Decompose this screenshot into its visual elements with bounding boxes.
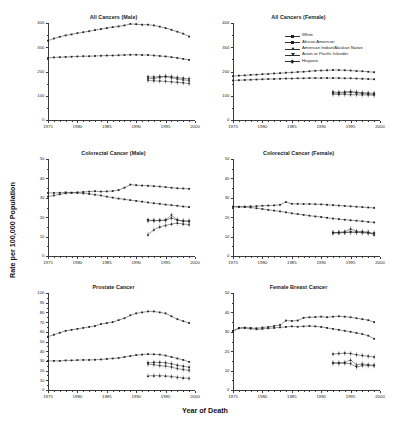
x-tick-label: 1980	[69, 260, 85, 265]
legend: White African American American Indian/A…	[285, 33, 400, 65]
triangle-up-marker-icon	[291, 47, 295, 50]
x-tick-label: 2000	[187, 260, 203, 265]
x-minor-tick	[177, 257, 178, 258]
y-tick-label: 200	[216, 69, 230, 74]
x-tick-label: 1980	[254, 124, 270, 129]
x-minor-tick	[130, 121, 131, 122]
x-minor-tick	[101, 257, 102, 258]
x-minor-tick	[309, 257, 310, 258]
y-tick-label: 300	[216, 45, 230, 50]
x-minor-tick	[183, 257, 184, 258]
x-tick-label: 1995	[343, 260, 359, 265]
y-tick-label: 0	[216, 117, 230, 122]
x-minor-tick	[374, 257, 375, 258]
x-tick-mark	[380, 391, 381, 393]
y-tick-label: 70	[31, 320, 45, 325]
x-minor-tick	[345, 121, 346, 122]
x-minor-tick	[333, 121, 334, 122]
x-minor-tick	[101, 121, 102, 122]
x-minor-tick	[304, 257, 305, 258]
x-tick-mark	[195, 121, 196, 123]
legend-label: African American	[302, 39, 334, 44]
x-minor-tick	[160, 257, 161, 258]
x-tick-mark	[233, 391, 234, 393]
x-tick-mark	[166, 121, 167, 123]
x-tick-mark	[107, 257, 108, 259]
x-minor-tick	[171, 257, 172, 258]
series-layer	[48, 293, 195, 390]
x-axis-line	[48, 120, 195, 121]
x-minor-tick	[72, 257, 73, 258]
plot-area: 0102030405060708090100197519801985199019…	[48, 293, 195, 390]
series-line	[233, 326, 374, 339]
x-minor-tick	[142, 121, 143, 122]
x-axis-line	[233, 390, 380, 391]
x-minor-tick	[60, 257, 61, 258]
x-minor-tick	[251, 257, 252, 258]
x-axis-line	[233, 120, 380, 121]
x-minor-tick	[54, 391, 55, 392]
y-tick-label: 400	[216, 20, 230, 25]
series-layer	[48, 23, 195, 120]
x-tick-mark	[107, 391, 108, 393]
x-minor-tick	[298, 257, 299, 258]
x-minor-tick	[160, 391, 161, 392]
x-tick-label: 1975	[225, 124, 241, 129]
x-minor-tick	[113, 121, 114, 122]
y-tick-label: 10	[31, 234, 45, 239]
x-tick-label: 1985	[284, 124, 300, 129]
square-marker-icon	[291, 35, 294, 38]
x-minor-tick	[189, 257, 190, 258]
figure-xlabel: Year of Death	[150, 406, 260, 415]
x-minor-tick	[362, 391, 363, 392]
x-minor-tick	[54, 121, 55, 122]
x-tick-label: 1990	[313, 394, 329, 399]
x-tick-label: 2000	[372, 394, 388, 399]
x-minor-tick	[245, 121, 246, 122]
x-minor-tick	[251, 121, 252, 122]
x-tick-label: 1980	[254, 260, 270, 265]
series-line	[233, 202, 374, 208]
x-tick-mark	[262, 391, 263, 393]
diamond-marker-icon	[290, 59, 294, 63]
x-tick-mark	[233, 257, 234, 259]
x-axis-line	[48, 390, 195, 391]
x-tick-label: 2000	[187, 124, 203, 129]
y-tick-label: 40	[31, 176, 45, 181]
x-tick-mark	[48, 257, 49, 259]
y-tick-label: 20	[31, 368, 45, 373]
chart-panel: All Cancers (Male)0100200300400197519801…	[26, 14, 201, 134]
x-minor-tick	[333, 257, 334, 258]
x-minor-tick	[124, 121, 125, 122]
x-minor-tick	[101, 391, 102, 392]
x-minor-tick	[309, 391, 310, 392]
x-minor-tick	[60, 391, 61, 392]
y-tick-label: 60	[31, 329, 45, 334]
x-minor-tick	[95, 391, 96, 392]
x-minor-tick	[304, 121, 305, 122]
y-tick-label: 20	[216, 349, 230, 354]
x-axis-line	[233, 256, 380, 257]
plot-area: 01020304050197519801985199019952000	[233, 159, 380, 256]
x-tick-mark	[195, 391, 196, 393]
x-tick-mark	[77, 257, 78, 259]
series-line	[48, 185, 189, 193]
x-tick-label: 1995	[343, 394, 359, 399]
x-tick-mark	[321, 121, 322, 123]
x-minor-tick	[280, 391, 281, 392]
y-tick-label: 40	[31, 349, 45, 354]
x-minor-tick	[304, 391, 305, 392]
x-minor-tick	[66, 121, 67, 122]
x-tick-mark	[233, 121, 234, 123]
x-tick-mark	[77, 391, 78, 393]
y-tick-label: 100	[216, 93, 230, 98]
x-minor-tick	[177, 121, 178, 122]
x-minor-tick	[83, 257, 84, 258]
x-tick-mark	[321, 391, 322, 393]
y-tick-label: 10	[216, 234, 230, 239]
x-tick-mark	[48, 391, 49, 393]
y-tick-label: 300	[31, 45, 45, 50]
x-minor-tick	[374, 121, 375, 122]
cancer-mortality-figure: Rate per 100,000 Population Year of Deat…	[0, 0, 406, 425]
x-minor-tick	[257, 121, 258, 122]
